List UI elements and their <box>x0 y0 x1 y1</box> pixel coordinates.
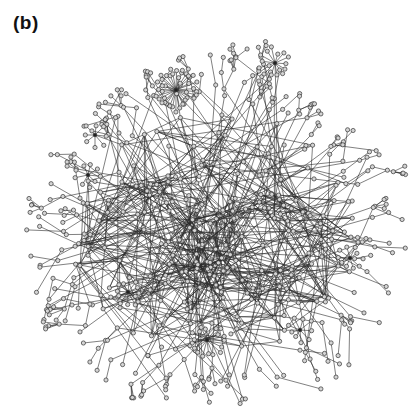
network-node <box>334 375 338 379</box>
network-node <box>127 276 131 280</box>
network-node <box>230 117 234 121</box>
network-edge <box>106 360 111 380</box>
network-node <box>247 98 251 102</box>
network-edge <box>242 318 275 323</box>
network-node <box>47 297 51 301</box>
network-node <box>184 198 188 202</box>
network-node <box>166 174 170 178</box>
network-node <box>307 338 311 342</box>
network-node <box>240 278 244 282</box>
network-node <box>245 291 249 295</box>
network-node <box>264 44 268 48</box>
network-node <box>322 351 326 355</box>
network-node <box>121 210 125 214</box>
network-node <box>160 345 164 349</box>
network-edge <box>252 207 263 245</box>
network-node <box>222 87 226 91</box>
network-node <box>202 198 206 202</box>
network-node <box>25 228 29 232</box>
network-edge <box>27 230 64 232</box>
network-node <box>88 163 92 167</box>
network-edge <box>259 369 276 386</box>
network-node <box>61 220 65 224</box>
network-node <box>88 232 92 236</box>
network-node <box>297 276 301 280</box>
network-node <box>198 285 202 289</box>
network-node <box>349 321 353 325</box>
network-node <box>142 132 146 136</box>
network-node <box>146 353 150 357</box>
network-node <box>267 155 271 159</box>
network-node <box>260 287 264 291</box>
network-node <box>234 56 238 60</box>
network-node <box>247 274 251 278</box>
network-node <box>103 100 107 104</box>
network-node <box>117 131 121 135</box>
network-node <box>180 68 184 72</box>
network-node <box>118 301 122 305</box>
network-node <box>148 295 152 299</box>
network-node <box>326 359 330 363</box>
network-node <box>346 199 350 203</box>
network-node <box>186 67 190 71</box>
network-node <box>164 201 168 205</box>
network-node <box>301 210 305 214</box>
network-node <box>374 149 378 153</box>
network-node <box>173 347 177 351</box>
network-node <box>246 283 250 287</box>
network-node <box>346 128 350 132</box>
network-node <box>201 387 205 391</box>
network-node <box>360 240 364 244</box>
network-node <box>219 379 223 383</box>
network-node <box>219 326 223 330</box>
network-node <box>142 210 146 214</box>
network-node <box>329 144 333 148</box>
network-node <box>57 322 61 326</box>
network-node <box>63 207 67 211</box>
network-node <box>235 315 239 319</box>
network-node <box>200 202 204 206</box>
network-node <box>104 378 108 382</box>
network-node <box>63 319 67 323</box>
network-node <box>190 218 194 222</box>
network-node <box>214 247 218 251</box>
network-edge <box>194 79 270 146</box>
network-node <box>45 309 49 313</box>
network-node <box>216 261 220 265</box>
network-node <box>159 73 163 77</box>
network-node <box>270 96 274 100</box>
network-node <box>220 345 224 349</box>
network-node <box>37 215 41 219</box>
network-node <box>194 252 198 256</box>
network-node <box>329 341 333 345</box>
network-node <box>226 384 230 388</box>
network-node <box>80 182 84 186</box>
network-node <box>356 240 360 244</box>
network-node <box>160 84 164 88</box>
network-node <box>292 316 296 320</box>
network-node <box>85 201 89 205</box>
network-node <box>278 268 282 272</box>
network-node <box>220 113 224 117</box>
network-node <box>365 155 369 159</box>
network-node <box>41 320 45 324</box>
network-node <box>28 210 32 214</box>
network-node <box>337 362 341 366</box>
network-node <box>223 133 227 137</box>
network-node <box>186 74 190 78</box>
network-node <box>240 344 244 348</box>
network-node <box>29 254 33 258</box>
network-node <box>224 243 228 247</box>
network-node <box>199 72 203 76</box>
network-node <box>339 313 343 317</box>
network-node <box>114 116 118 120</box>
network-node <box>184 269 188 273</box>
network-node <box>171 253 175 257</box>
network-node <box>249 297 253 301</box>
network-node <box>227 223 231 227</box>
network-node <box>341 143 345 147</box>
network-node <box>316 377 320 381</box>
network-node <box>134 106 138 110</box>
network-edge <box>370 240 389 243</box>
network-node <box>312 177 316 181</box>
